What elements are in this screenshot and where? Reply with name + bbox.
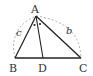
triangle-diagram: A B D C c b xyxy=(0,0,93,76)
vertex-label-c: C xyxy=(79,62,87,75)
angle-mark-right xyxy=(39,23,41,25)
vertex-label-b: B xyxy=(9,62,17,75)
side-ac xyxy=(36,16,81,58)
angle-mark-left xyxy=(33,24,35,26)
side-label-b: b xyxy=(66,25,72,36)
vertex-label-a: A xyxy=(30,3,40,16)
side-label-c: c xyxy=(16,27,22,38)
vertex-label-d: D xyxy=(38,62,47,75)
